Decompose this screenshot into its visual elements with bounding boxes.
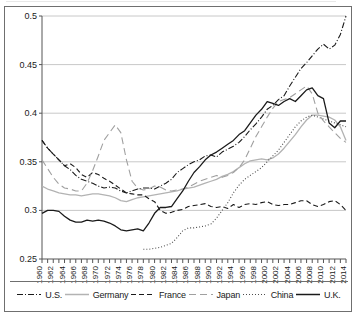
series-line-germany [42, 115, 346, 202]
legend-swatch-france [131, 290, 155, 299]
series-line-japan [42, 86, 346, 191]
legend-label: U.S. [45, 290, 62, 300]
legend-label: U.K. [324, 290, 341, 300]
legend-label: China [271, 290, 294, 300]
svg-text:0.25: 0.25 [19, 254, 37, 264]
page-top-rule [0, 0, 357, 4]
svg-text:0.3: 0.3 [24, 205, 37, 215]
legend-item-uk[interactable]: U.K. [296, 290, 341, 300]
series-line-uk [42, 88, 346, 231]
svg-text:0.45: 0.45 [19, 60, 37, 70]
chart-screenshot: 0.250.30.350.40.450.5 196019621964196619… [0, 0, 357, 319]
svg-text:0.5: 0.5 [24, 11, 37, 21]
legend-item-germany[interactable]: Germany [65, 290, 129, 300]
legend-swatch-germany [65, 290, 89, 299]
legend-swatch-japan [189, 290, 213, 299]
series-line-us [42, 16, 346, 193]
series-line-china [143, 115, 346, 249]
line-chart: 0.250.30.350.40.450.5 196019621964196619… [5, 7, 351, 311]
legend-item-japan[interactable]: Japan [189, 290, 241, 300]
series-line-france [42, 140, 346, 213]
chart-legend: U.S.GermanyFranceJapanChinaU.K. [10, 281, 348, 307]
legend-swatch-china [243, 290, 267, 299]
svg-text:0.4: 0.4 [24, 108, 37, 118]
legend-label: France [159, 290, 186, 300]
svg-text:0.35: 0.35 [19, 157, 37, 167]
legend-item-us[interactable]: U.S. [17, 290, 62, 300]
y-axis: 0.250.30.350.40.450.5 [19, 11, 42, 264]
series-lines [42, 16, 346, 249]
gridlines [42, 16, 346, 259]
chart-frame: 0.250.30.350.40.450.5 196019621964196619… [4, 6, 352, 312]
legend-item-china[interactable]: China [243, 290, 294, 300]
legend-item-france[interactable]: France [131, 290, 186, 300]
legend-label: Japan [217, 290, 241, 300]
legend-swatch-uk [296, 290, 320, 299]
legend-swatch-us [17, 290, 41, 299]
legend-label: Germany [93, 290, 129, 300]
